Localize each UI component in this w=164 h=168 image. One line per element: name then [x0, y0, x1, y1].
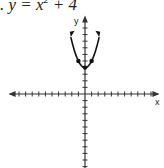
plotted-point	[83, 65, 87, 69]
plotted-point	[89, 59, 93, 63]
x-axis-label: x	[155, 97, 160, 107]
parabola-graph: x y	[0, 0, 164, 168]
plotted-point	[76, 59, 80, 63]
y-axis-label: y	[74, 16, 79, 26]
axes	[10, 17, 158, 168]
